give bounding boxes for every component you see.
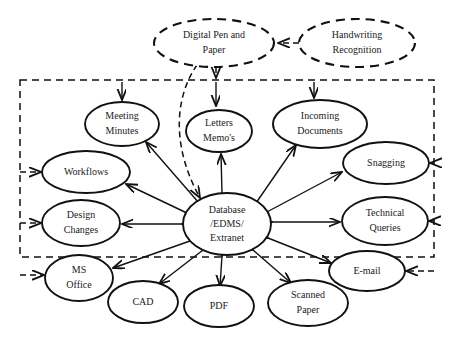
node-label-snagging: Snagging (367, 157, 405, 168)
node-label-digital-pen-and-paper-line1: Digital Pen and (183, 29, 245, 40)
node-label-handwriting-recognition-line1: Handwriting (332, 29, 383, 40)
node-label-technical-queries-line1: Technical (366, 207, 405, 218)
node-label-ms-office-line2: Office (66, 279, 92, 290)
node-label-ms-office-line1: MS (72, 264, 86, 275)
node-meeting-minutes[interactable]: Meeting Minutes (85, 102, 159, 146)
edge-database-to-meeting-minutes (146, 142, 199, 203)
node-label-pdf: PDF (210, 300, 229, 311)
node-design-changes[interactable]: Design Changes (42, 200, 120, 246)
edge-database-to-workflows (126, 184, 189, 214)
node-label-database-line3: Extranet (210, 232, 244, 243)
node-label-workflows: Workflows (64, 166, 108, 177)
node-label-email: E-mail (353, 265, 380, 276)
node-ms-office[interactable]: MS Office (45, 255, 113, 301)
node-handwriting-recognition[interactable]: Handwriting Recognition (299, 19, 415, 67)
node-label-letters-memos-line1: Letters (205, 117, 233, 128)
node-database-edms-extranet[interactable]: Database /EDMS/ Extranet (183, 193, 271, 255)
edge-database-to-letters-memos (221, 154, 222, 194)
node-cad[interactable]: CAD (108, 281, 178, 323)
diagram-canvas: Digital Pen and Paper Handwriting Recogn… (0, 0, 454, 348)
node-label-scanned-paper-line2: Paper (297, 304, 320, 315)
node-incoming-documents[interactable]: Incoming Documents (273, 100, 367, 148)
node-label-cad: CAD (132, 296, 153, 307)
node-snagging[interactable]: Snagging (343, 142, 429, 184)
node-label-incoming-documents-line2: Documents (297, 125, 343, 136)
node-label-incoming-documents-line1: Incoming (301, 110, 339, 121)
node-label-meeting-minutes-line2: Minutes (106, 125, 139, 136)
node-letters-memos[interactable]: Letters Memo's (186, 110, 252, 152)
node-digital-pen-and-paper[interactable]: Digital Pen and Paper (154, 19, 274, 67)
node-label-database-line1: Database (209, 204, 246, 215)
node-label-digital-pen-and-paper-line2: Paper (203, 44, 226, 55)
edge-database-to-cad (159, 250, 203, 284)
node-pdf[interactable]: PDF (184, 285, 254, 327)
node-label-database-line2: /EDMS/ (210, 218, 244, 229)
node-label-meeting-minutes-line1: Meeting (105, 110, 138, 121)
node-scanned-paper[interactable]: Scanned Paper (268, 280, 348, 326)
node-label-scanned-paper-line1: Scanned (291, 289, 325, 300)
node-email[interactable]: E-mail (329, 251, 405, 291)
diagram-svg: Digital Pen and Paper Handwriting Recogn… (0, 0, 454, 348)
edge-database-to-email (268, 238, 331, 263)
edge-database-to-snagging (265, 172, 342, 213)
edge-database-to-scanned-paper (253, 250, 291, 283)
node-workflows[interactable]: Workflows (42, 151, 130, 193)
node-label-letters-memos-line2: Memo's (203, 132, 235, 143)
node-label-design-changes-line1: Design (67, 209, 95, 220)
edge-database-to-incoming-documents (256, 145, 296, 203)
node-technical-queries[interactable]: Technical Queries (342, 197, 428, 245)
edge-database-to-ms-office (113, 241, 190, 268)
node-label-technical-queries-line2: Queries (369, 222, 400, 233)
node-label-handwriting-recognition-line2: Recognition (333, 44, 382, 55)
edge-database-to-pdf (220, 256, 222, 286)
node-label-design-changes-line2: Changes (64, 224, 99, 235)
